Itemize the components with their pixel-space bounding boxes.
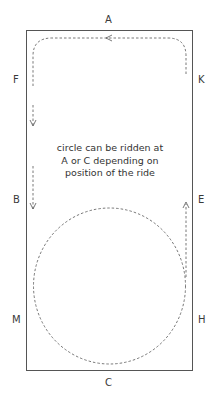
marker-b: B — [13, 195, 20, 205]
note-line: A or C depending on — [50, 155, 170, 168]
marker-m: M — [12, 315, 21, 325]
marker-c: C — [105, 378, 112, 388]
circle-note: circle can be ridden at A or C depending… — [50, 142, 170, 180]
marker-a: A — [105, 15, 112, 25]
note-line: position of the ride — [50, 167, 170, 180]
arena-diagram — [0, 0, 218, 402]
marker-f: F — [13, 75, 19, 85]
arena-border — [27, 31, 193, 371]
circle-path — [34, 208, 186, 364]
marker-h: H — [198, 315, 206, 325]
track-path-top — [33, 38, 186, 86]
note-line: circle can be ridden at — [50, 142, 170, 155]
marker-e: E — [198, 195, 204, 205]
marker-k: K — [198, 75, 205, 85]
